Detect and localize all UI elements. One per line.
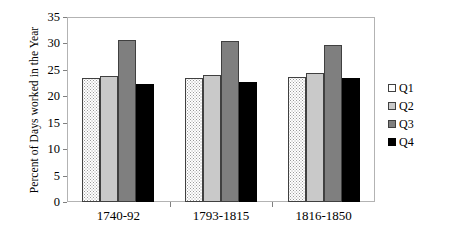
bar-q1-1: [185, 78, 203, 202]
bar-q1-2: [288, 77, 306, 202]
y-tick-label: 25: [34, 64, 60, 77]
legend-item-q3: Q3: [388, 116, 414, 132]
bar-q2-0: [100, 76, 118, 202]
legend-label: Q1: [399, 82, 414, 94]
y-tick-label: 0: [34, 196, 60, 209]
chart-legend: Q1Q2Q3Q4: [388, 80, 414, 152]
bar-q3-0: [118, 40, 136, 202]
legend-label: Q3: [399, 118, 414, 130]
bar-q1-0: [82, 78, 100, 202]
x-tick-label: 1793-1815: [170, 208, 273, 224]
bar-q3-1: [221, 41, 239, 202]
bar-chart: Percent of Days worked in the Year 05101…: [0, 0, 457, 245]
bar-q4-1: [239, 82, 257, 202]
legend-label: Q2: [399, 100, 414, 112]
bar-q2-2: [306, 73, 324, 203]
bar-q4-2: [342, 78, 360, 202]
x-tick-label: 1816-1850: [272, 208, 375, 224]
legend-swatch-icon: [388, 102, 396, 110]
y-tick-label: 10: [34, 143, 60, 156]
bar-q3-2: [324, 45, 342, 202]
y-tick-label: 30: [34, 37, 60, 50]
y-tick-label: 15: [34, 116, 60, 129]
legend-item-q1: Q1: [388, 80, 414, 96]
y-tick-mark: [63, 202, 67, 203]
legend-swatch-icon: [388, 84, 396, 92]
x-tick-label: 1740-92: [67, 208, 170, 224]
bar-q4-0: [136, 84, 154, 202]
legend-item-q2: Q2: [388, 98, 414, 114]
y-tick-label: 5: [34, 169, 60, 182]
legend-label: Q4: [399, 136, 414, 148]
bars-layer: [67, 17, 375, 202]
legend-item-q4: Q4: [388, 134, 414, 150]
legend-swatch-icon: [388, 120, 396, 128]
y-tick-label: 20: [34, 90, 60, 103]
bar-q2-1: [203, 75, 221, 202]
y-tick-label: 35: [34, 11, 60, 24]
x-axis-separator: [272, 202, 273, 207]
x-axis-separator: [170, 202, 171, 207]
legend-swatch-icon: [388, 138, 396, 146]
